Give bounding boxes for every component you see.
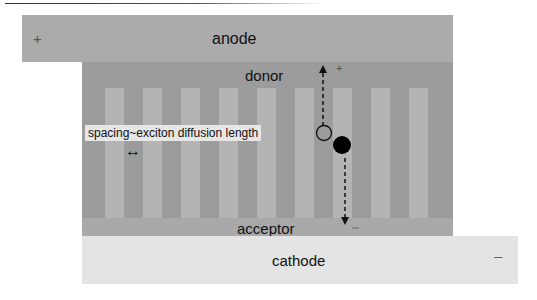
- electron-circle-icon: [333, 136, 351, 154]
- hole-plus-sign: +: [336, 62, 342, 74]
- carrier-overlay: +: [0, 0, 537, 300]
- hole-circle-icon: [317, 126, 332, 141]
- up-arrowhead-icon: [319, 65, 327, 73]
- down-arrowhead-icon: [341, 217, 349, 225]
